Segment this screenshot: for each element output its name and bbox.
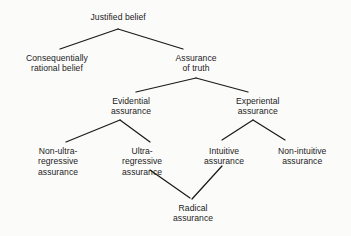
node-radical-assurance: Radicalassurance (173, 203, 213, 224)
node-label-line: assurance (236, 106, 280, 116)
node-ultra-regressive-assurance: Ultra-regressiveassurance (122, 146, 162, 177)
node-label-line: Radical (173, 203, 213, 213)
node-label-line: of truth (176, 63, 217, 73)
node-label-line: assurance (38, 167, 78, 177)
node-label-line: Non-intuitive (278, 146, 326, 156)
edge-experiental-to-intuitive (222, 120, 253, 140)
node-non-ultra-regressive-assurance: Non-ultra-regressiveassurance (38, 146, 78, 177)
edge-assurance-to-experiental (196, 78, 248, 92)
node-label-line: Justified belief (91, 12, 146, 22)
node-label-line: Intuitive (204, 146, 244, 156)
node-label-line: Assurance (176, 53, 217, 63)
node-label-line: assurance (204, 156, 244, 166)
node-label-line: assurance (278, 156, 326, 166)
node-label-line: Consequentially (26, 53, 88, 63)
node-intuitive-assurance: Intuitiveassurance (204, 146, 244, 167)
node-label-line: assurance (111, 106, 151, 116)
edge-intuitive-to-radical (192, 166, 222, 199)
edge-layer (0, 0, 351, 236)
edge-experiental-to-non-intuitive (253, 120, 285, 140)
edge-evidential-to-non-ultra (66, 120, 120, 142)
edge-evidential-to-ultra (120, 120, 150, 142)
node-non-intuitive-assurance: Non-intuitiveassurance (278, 146, 326, 167)
node-label-line: regressive (122, 156, 162, 166)
node-assurance-of-truth: Assuranceof truth (176, 53, 217, 74)
node-label-line: Ultra- (122, 146, 162, 156)
node-experiental-assurance: Experientalassurance (236, 96, 280, 117)
node-justified-belief: Justified belief (91, 12, 146, 22)
node-label-line: Experiental (236, 96, 280, 106)
node-label-line: assurance (122, 167, 162, 177)
node-label-line: Non-ultra- (38, 146, 78, 156)
edge-justified-to-assurance (118, 29, 183, 49)
tree-diagram: Justified beliefConsequentiallyrational … (0, 0, 351, 236)
node-label-line: regressive (38, 156, 78, 166)
node-evidential-assurance: Evidentialassurance (111, 96, 151, 117)
node-label-line: Evidential (111, 96, 151, 106)
edge-assurance-to-evidential (136, 78, 196, 92)
node-consequentially-rational-belief: Consequentiallyrational belief (26, 53, 88, 74)
node-label-line: assurance (173, 213, 213, 223)
node-label-line: rational belief (26, 63, 88, 73)
edge-justified-to-consequentially (60, 29, 118, 49)
